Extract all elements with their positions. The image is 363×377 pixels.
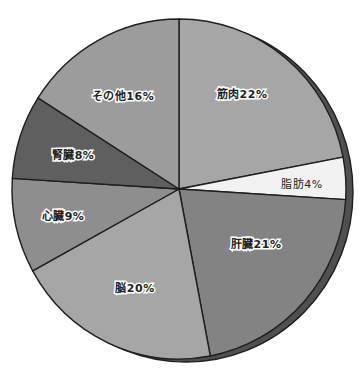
slice-label-1: 脂肪4%	[281, 177, 322, 191]
slice-label-3: 脳20%	[115, 282, 154, 295]
pie-chart: 筋肉22%脂肪4%肝臓21%脳20%心臓9%腎臓8%その他16%	[0, 0, 363, 377]
slice-label-6: その他16%	[92, 89, 154, 103]
slice-label-5: 腎臓8%	[52, 148, 95, 162]
slice-label-2: 肝臓21%	[231, 237, 282, 251]
slice-label-4: 心臓9%	[42, 209, 85, 223]
slice-label-0: 筋肉22%	[216, 87, 268, 101]
